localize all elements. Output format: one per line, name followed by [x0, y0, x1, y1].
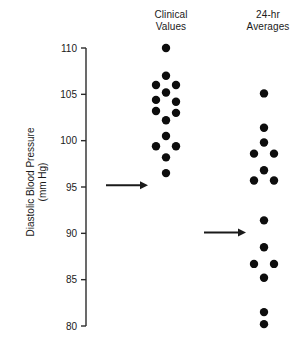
scatter-plot-figure: Clinical Values 24-hr Averages Diastolic… [0, 0, 305, 348]
data-point [152, 142, 160, 150]
data-point [260, 123, 268, 131]
data-point [172, 142, 180, 150]
data-point [260, 89, 268, 97]
data-point [162, 169, 170, 177]
y-tick-label: 95 [66, 182, 78, 193]
y-tick-label: 110 [61, 43, 77, 54]
data-point [260, 320, 268, 328]
y-axis-tick-labels: 80859095100105110 [60, 43, 77, 332]
data-point [260, 216, 268, 224]
data-point [260, 138, 268, 146]
arrow-head [238, 228, 246, 236]
data-point [162, 116, 170, 124]
data-points-clinical-values [152, 44, 180, 178]
y-tick-label: 100 [60, 135, 77, 146]
data-point [152, 81, 160, 89]
data-points-24hr-averages [250, 89, 278, 328]
y-axis [81, 48, 86, 326]
data-point [250, 260, 258, 268]
data-point [172, 81, 180, 89]
data-point [270, 149, 278, 157]
data-point [162, 132, 170, 140]
data-point [172, 98, 180, 106]
data-point [260, 166, 268, 174]
data-point [152, 96, 160, 104]
arrow-head [140, 181, 148, 189]
y-tick-label: 90 [66, 228, 78, 239]
plot-area: 80859095100105110 [0, 0, 305, 348]
data-point [250, 149, 258, 157]
y-tick-label: 80 [66, 321, 78, 332]
data-point [260, 274, 268, 282]
y-tick-label: 105 [60, 89, 77, 100]
data-point [172, 109, 180, 117]
data-point [270, 260, 278, 268]
data-point [260, 243, 268, 251]
data-point [270, 176, 278, 184]
data-point [162, 153, 170, 161]
data-point [260, 308, 268, 316]
data-point [162, 88, 170, 96]
data-point [162, 44, 170, 52]
mean-indicator-arrows [106, 181, 246, 236]
data-point [152, 107, 160, 115]
data-point [162, 72, 170, 80]
data-point [250, 176, 258, 184]
y-tick-label: 85 [66, 274, 78, 285]
